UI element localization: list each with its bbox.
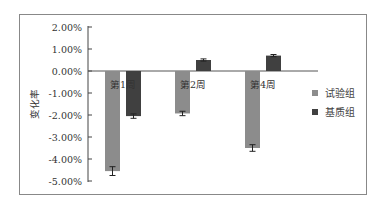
bar-chart: 2.00%1.00%0.00%-1.00%-2.00%-3.00%-4.00%-… bbox=[0, 0, 382, 208]
legend-label: 基质组 bbox=[325, 106, 355, 118]
legend-swatch bbox=[312, 90, 318, 96]
category-label: 第4周 bbox=[250, 79, 276, 90]
legend: 试验组基质组 bbox=[312, 87, 355, 118]
bar bbox=[175, 71, 190, 113]
bar bbox=[196, 60, 211, 71]
legend-swatch bbox=[312, 109, 318, 115]
y-tick-label: 0.00% bbox=[52, 66, 82, 77]
bars bbox=[105, 55, 281, 176]
y-tick-label: -4.00% bbox=[49, 154, 82, 165]
legend-label: 试验组 bbox=[325, 87, 355, 99]
y-tick-label: -5.00% bbox=[49, 176, 82, 187]
y-tick-label: 1.00% bbox=[52, 44, 82, 55]
y-ticks: 2.00%1.00%0.00%-1.00%-2.00%-3.00%-4.00%-… bbox=[49, 22, 92, 187]
category-label: 第2周 bbox=[180, 79, 206, 90]
bar bbox=[126, 71, 141, 116]
y-axis-label: 变化率 bbox=[29, 89, 40, 119]
category-label: 第1周 bbox=[110, 79, 136, 90]
y-tick-label: 2.00% bbox=[52, 22, 82, 33]
y-tick-label: -3.00% bbox=[49, 132, 82, 143]
y-tick-label: -1.00% bbox=[49, 88, 82, 99]
bar bbox=[266, 56, 281, 71]
y-tick-label: -2.00% bbox=[49, 110, 82, 121]
category-labels: 第1周第2周第4周 bbox=[110, 79, 276, 90]
